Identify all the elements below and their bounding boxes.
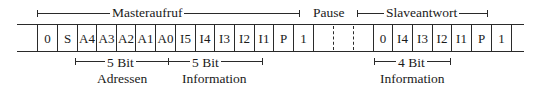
master-info-span-end-tick [262,58,263,65]
bit-cell-a0: A0 [156,25,175,51]
bit-cell-start: 0 [374,25,392,51]
bit-cell-i1: I1 [255,25,273,51]
bit-cell-i2: I2 [235,25,254,51]
master-call-label: Masteraufruf [110,6,184,20]
bit-cell-i1: I1 [452,25,471,51]
bit-cell-start: 0 [38,25,57,51]
bit-cell-select: S [58,25,77,51]
pause-dashed-divider [353,26,354,50]
address-bit-count: 5 Bit [105,56,136,70]
bit-cell-a3: A3 [97,25,116,51]
bit-cell-end: 1 [294,25,313,51]
slave-info-description: Information [378,72,446,86]
bit-cell-i4: I4 [196,25,214,51]
slave-info-bit-count: 4 Bit [396,56,427,70]
slave-info-span-end-tick [450,58,451,65]
master-span-end-tick [299,10,300,17]
bit-cell-a4: A4 [78,25,96,51]
master-info-bit-count: 5 Bit [190,56,221,70]
bit-cell-a2: A2 [117,25,135,51]
bit-cell-a1: A1 [136,25,155,51]
bit-cell-parity: P [274,25,293,51]
frame-bottom-line [17,51,524,52]
divider [313,24,314,52]
bit-cell-parity: P [472,25,491,51]
pause-label: Pause [311,6,347,20]
divider [511,24,512,52]
bit-cell-i4: I4 [393,25,412,51]
bit-cell-i3: I3 [215,25,234,51]
bit-cell-end: 1 [492,25,511,51]
slave-span-end-tick [487,10,488,17]
pause-dashed-divider [333,26,334,50]
bit-cell-i3: I3 [413,25,432,51]
slave-response-label: Slaveantwort [384,6,459,20]
bit-cell-i2: I2 [433,25,451,51]
bit-cell-i5: I5 [176,25,195,51]
master-info-description: Information [180,72,248,86]
address-description: Adressen [95,72,149,86]
